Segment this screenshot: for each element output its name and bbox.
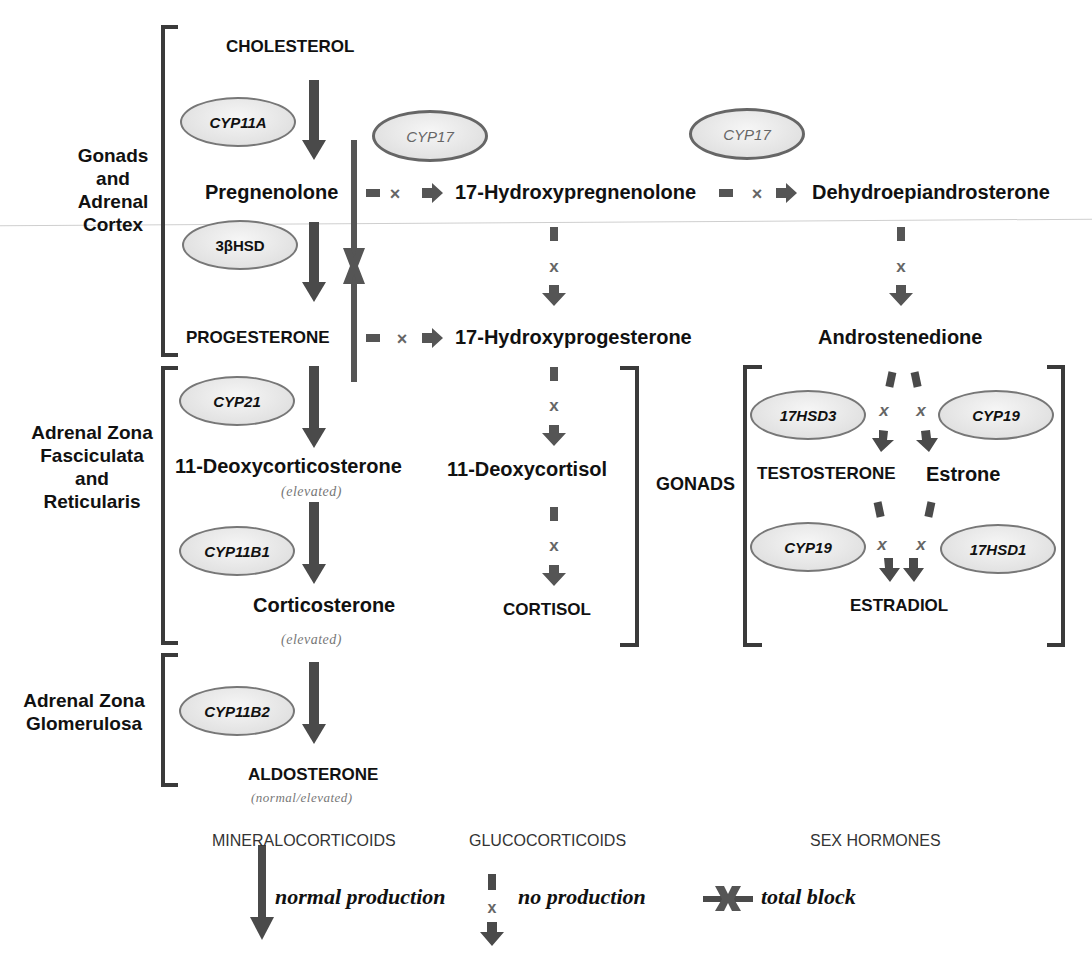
svg-text:x: x [876, 535, 888, 554]
svg-text:x: x [896, 257, 906, 276]
compound-progesterone: PROGESTERONE [186, 328, 330, 348]
region-label-gonads: GONADS [656, 474, 735, 495]
enzyme-17hsd1: 17HSD1 [940, 524, 1056, 574]
svg-text:x: x [549, 536, 559, 555]
compound-cortisol: CORTISOL [503, 600, 591, 620]
svg-text:×: × [397, 329, 408, 349]
svg-text:x: x [915, 401, 927, 420]
class-mineralocorticoids: MINERALOCORTICOIDS [212, 832, 396, 850]
svg-text:×: × [752, 184, 763, 204]
region-label-glomerulosa: Adrenal Zona Glomerulosa [14, 689, 154, 735]
enzyme-cyp19-estradiol: CYP19 [750, 522, 866, 572]
note-corticosterone-elevated: (elevated) [281, 632, 342, 648]
enzyme-cyp17-second: CYP17 [689, 108, 805, 160]
legend-total-block: total block [761, 884, 856, 910]
enzyme-cyp17-first: CYP17 [372, 110, 488, 162]
compound-11-deoxycorticosterone: 11-Deoxycorticosterone [175, 455, 402, 478]
note-aldosterone: (normal/elevated) [251, 790, 353, 806]
compound-aldosterone: ALDOSTERONE [248, 765, 378, 785]
svg-text:x: x [915, 535, 927, 554]
compound-11-deoxycortisol: 11-Deoxycortisol [447, 458, 607, 481]
compound-estradiol: ESTRADIOL [850, 596, 948, 616]
svg-text:x: x [878, 401, 890, 420]
bracket-fasciculata [163, 368, 178, 643]
class-glucocorticoids: GLUCOCORTICOIDS [469, 832, 626, 850]
enzyme-17hsd3: 17HSD3 [750, 390, 866, 440]
compound-estrone: Estrone [926, 463, 1000, 486]
compound-androstenedione: Androstenedione [818, 326, 982, 349]
enzyme-cyp21: CYP21 [179, 376, 295, 426]
note-deoxycorticosterone-elevated: (elevated) [281, 484, 342, 500]
legend-normal-production: normal production [275, 884, 446, 910]
blocked-horizontal-arrows: × × × [366, 183, 797, 349]
region-label-gonads-adrenal-cortex: Gonads and Adrenal Cortex [63, 144, 163, 236]
compound-17-hydroxyprogesterone: 17-Hydroxyprogesterone [455, 326, 692, 349]
compound-testosterone: TESTOSTERONE [757, 464, 896, 484]
compound-cholesterol: CHOLESTEROL [226, 37, 354, 57]
svg-text:×: × [390, 184, 401, 204]
compound-17-hydroxypregnenolone: 17-Hydroxypregnenolone [455, 181, 696, 204]
bracket-glomerulosa [163, 655, 178, 785]
enzyme-cyp11a: CYP11A [180, 97, 296, 147]
class-sex-hormones: SEX HORMONES [810, 832, 941, 850]
svg-text:x: x [549, 257, 559, 276]
svg-text:x: x [488, 899, 497, 916]
bracket-glucocorticoid-right [620, 368, 637, 645]
compound-dhea: Dehydroepiandrosterone [812, 181, 1050, 204]
compound-corticosterone: Corticosterone [253, 594, 395, 617]
enzyme-cyp11b2: CYP11B2 [179, 686, 295, 736]
total-block-line [343, 140, 365, 382]
enzyme-cyp11b1: CYP11B1 [179, 526, 295, 576]
legend-no-production: no production [518, 884, 646, 910]
bracket-gonads-adrenal-cortex [163, 27, 178, 355]
enzyme-3bhsd: 3βHSD [182, 220, 298, 270]
region-label-fasciculata: Adrenal Zona Fasciculata and Reticularis [22, 421, 162, 513]
compound-pregnenolone: Pregnenolone [205, 181, 338, 204]
enzyme-cyp19-estrone: CYP19 [938, 390, 1054, 440]
svg-text:x: x [549, 396, 559, 415]
